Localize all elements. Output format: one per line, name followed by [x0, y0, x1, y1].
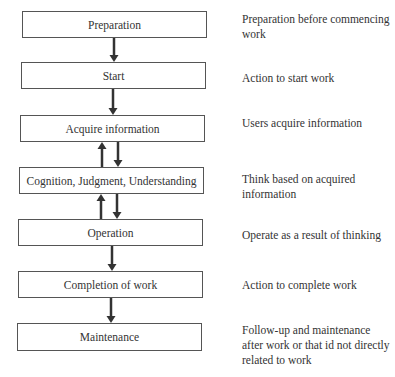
arrow-down-icon	[109, 89, 118, 115]
arrow-down-icon	[108, 246, 117, 271]
arrow-down-icon	[113, 194, 122, 219]
arrow-down-icon	[107, 298, 116, 323]
step-description: Action to start work	[242, 71, 392, 86]
step-description: Preparation before commencing work	[242, 12, 392, 42]
arrow-up-icon	[98, 142, 107, 167]
step-description: Follow-up and maintenance after work or …	[242, 323, 392, 368]
step-description: Action to complete work	[242, 278, 392, 293]
arrow-down-icon	[110, 38, 119, 62]
arrow-down-icon	[114, 142, 123, 167]
arrow-up-icon	[97, 194, 106, 219]
step-description: Think based on acquired information	[242, 172, 392, 202]
step-description: Operate as a result of thinking	[242, 228, 392, 243]
step-description: Users acquire information	[242, 116, 392, 131]
